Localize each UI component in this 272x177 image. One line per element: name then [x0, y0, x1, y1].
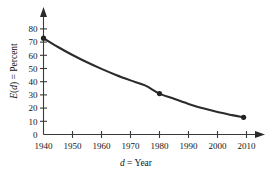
x-axis-tick-labels: 19401950196019701980199020002010 [35, 141, 257, 151]
x-axis-arrow-icon [255, 131, 265, 138]
x-tick-label: 1950 [64, 141, 83, 151]
y-axis-tick-labels: 01020304050607080 [29, 24, 39, 140]
x-tick-label: 1960 [93, 141, 112, 151]
x-tick-label: 2010 [238, 141, 257, 151]
x-tick-label: 1990 [180, 141, 199, 151]
x-tick-label: 2000 [209, 141, 228, 151]
chart-plot-area: 01020304050607080 1940195019601970198019… [0, 0, 272, 177]
chart-figure: 01020304050607080 1940195019601970198019… [0, 0, 272, 177]
x-axis-title: d = Year [0, 158, 272, 168]
y-axis-group: 01020304050607080 [29, 7, 48, 140]
data-curve [44, 38, 244, 117]
y-axis-title-variable: E [9, 93, 19, 99]
x-tick-label: 1980 [151, 141, 170, 151]
y-tick-label: 0 [33, 130, 38, 140]
x-axis-title-text: = Year [125, 158, 152, 168]
y-tick-label: 30 [29, 90, 39, 100]
data-point-marker [157, 91, 162, 96]
y-axis-title-paren-open: ( [9, 90, 19, 93]
y-tick-label: 20 [29, 103, 39, 113]
y-axis-arrow-icon [40, 7, 47, 17]
y-tick-label: 60 [29, 51, 39, 61]
data-point-marker [241, 115, 246, 120]
x-tick-label: 1970 [122, 141, 141, 151]
y-axis-title-paren-close: ) [9, 82, 19, 85]
y-axis-title-text: = Percent [9, 43, 19, 82]
y-tick-label: 40 [29, 77, 39, 87]
data-points [41, 36, 246, 120]
y-axis-title-variable-inner: d [9, 85, 19, 90]
y-tick-label: 70 [29, 37, 39, 47]
y-tick-label: 50 [29, 64, 39, 74]
x-axis-group: 19401950196019701980199020002010 [35, 131, 266, 151]
y-tick-label: 80 [29, 24, 39, 34]
y-axis-title: E(d) = Percent [9, 21, 19, 121]
y-tick-label: 10 [29, 117, 39, 127]
data-point-marker [41, 36, 46, 41]
x-tick-label: 1940 [35, 141, 54, 151]
